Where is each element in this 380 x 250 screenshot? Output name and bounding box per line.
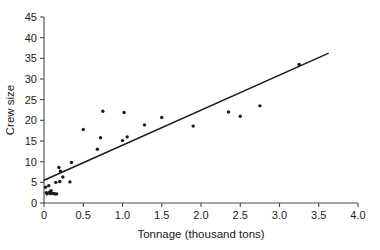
y-tick-label: 35 (25, 52, 37, 64)
y-tick-label: 30 (25, 73, 37, 85)
data-point (160, 116, 163, 119)
data-point (126, 135, 129, 138)
y-tick-label: 15 (25, 135, 37, 147)
y-tick-label: 40 (25, 32, 37, 44)
scatter-chart: 051015202530354045 00.51.01.52.02.53.03.… (0, 0, 380, 250)
x-tick-label: 1.0 (115, 209, 130, 221)
data-point (239, 115, 242, 118)
data-point (61, 175, 64, 178)
data-point (57, 166, 60, 169)
data-point (44, 186, 47, 189)
plot-area: 051015202530354045 00.51.01.52.02.53.03.… (0, 0, 380, 250)
data-point (59, 169, 62, 172)
data-point (54, 181, 57, 184)
data-point (55, 192, 58, 195)
data-point (122, 111, 125, 114)
y-tick-label: 10 (25, 156, 37, 168)
data-point (143, 123, 146, 126)
data-point (191, 124, 194, 127)
y-tick-label: 0 (31, 197, 37, 209)
data-point (258, 104, 261, 107)
y-axis-title: Crew size (4, 85, 16, 135)
y-tick-group: 051015202530354045 (25, 11, 44, 209)
data-point (297, 63, 300, 66)
data-point (96, 148, 99, 151)
x-tick-label: 0 (41, 209, 47, 221)
data-point (47, 184, 50, 187)
x-tick-label: 2.5 (233, 209, 248, 221)
data-point (101, 110, 104, 113)
x-tick-label: 3.5 (311, 209, 326, 221)
y-tick-label: 5 (31, 176, 37, 188)
data-point (70, 161, 73, 164)
y-tick-label: 45 (25, 11, 37, 23)
y-tick-label: 20 (25, 114, 37, 126)
x-tick-label: 4.0 (350, 209, 365, 221)
data-point (99, 136, 102, 139)
data-point (58, 180, 61, 183)
y-tick-label: 25 (25, 94, 37, 106)
data-point (227, 110, 230, 113)
x-axis: 00.51.01.52.02.53.03.54.0 (41, 203, 366, 221)
regression-line (44, 53, 328, 180)
x-tick-label: 0.5 (76, 209, 91, 221)
x-axis-title: Tonnage (thousand tons) (137, 228, 264, 240)
data-point (82, 128, 85, 131)
x-tick-label: 3.0 (272, 209, 287, 221)
x-tick-label: 2.0 (193, 209, 208, 221)
y-axis: 051015202530354045 (25, 11, 44, 209)
regression-line-group (44, 53, 328, 180)
x-tick-group: 00.51.01.52.02.53.03.54.0 (41, 203, 366, 221)
data-point (121, 139, 124, 142)
data-point (68, 180, 71, 183)
x-tick-label: 1.5 (154, 209, 169, 221)
